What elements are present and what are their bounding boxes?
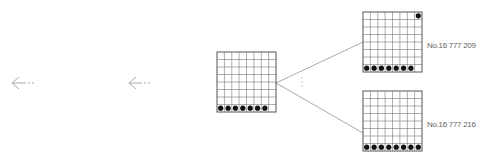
board-center (217, 52, 276, 112)
arrow-left-icon (12, 77, 34, 89)
board-top-right (363, 12, 422, 72)
board-bottom-right (363, 91, 422, 151)
arrow-left-icon (129, 77, 150, 89)
ellipsis-dots (301, 77, 303, 87)
branch-connector (276, 42, 363, 133)
board-label-top: No.16 777 209 (427, 41, 476, 50)
board-label-bottom: No.16 777 216 (427, 120, 476, 129)
diagram-canvas (0, 0, 483, 162)
